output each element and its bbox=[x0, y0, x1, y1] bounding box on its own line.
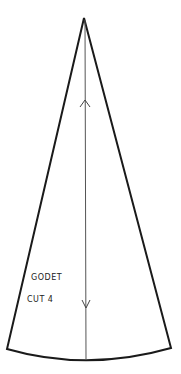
cut-instruction-label: CUT 4 bbox=[27, 296, 53, 304]
piece-name-label: GODET bbox=[31, 274, 62, 282]
pattern-piece bbox=[0, 0, 181, 374]
grainline bbox=[85, 20, 86, 360]
godet-outline bbox=[7, 18, 171, 360]
